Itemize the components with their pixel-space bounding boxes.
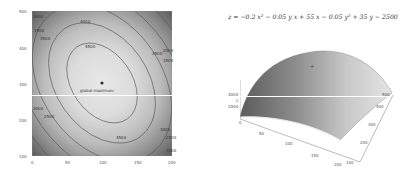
y-tick: 100 [19,154,27,159]
contour-label: 3000 [160,127,170,132]
separator-line [32,95,172,96]
contour-label: 4000 [80,19,90,24]
contour-label: 3500 [152,51,162,56]
z-axis-label: z [236,98,238,103]
contour-label: 4500 [85,44,95,49]
x-tick: 100 [99,160,107,165]
x-tick-3d: 200 [334,162,342,167]
contour-label: 2000 [166,148,176,153]
surface-plot-canvas: + [240,45,395,165]
y-tick-3d: 300 [368,122,376,127]
x-tick: 200 [168,160,176,165]
contour-label: 2500 [166,135,176,140]
x-tick-3d: 100 [285,141,293,146]
y-tick: 500 [19,9,27,14]
contour-label: 1500 [34,28,44,33]
y-tick-3d: 200 [360,140,368,145]
svg-text:+: + [310,63,314,69]
annotation-global-maximum: global maximum [80,88,114,93]
global-maximum-marker [100,81,103,84]
contour-label: 3000 [33,106,43,111]
x-tick-3d: 50 [259,131,264,136]
y-tick-3d: 500 [382,92,390,97]
z-tick: 4000 [228,92,238,97]
contour-label: 3500 [40,36,50,41]
surface-formula: z = −0.2 x² − 0.05 y x + 55 x − 0.05 y² … [228,13,398,20]
x-tick: 150 [134,160,142,165]
contour-label: 3000 [33,14,43,19]
y-tick-3d: 100 [346,160,354,165]
z-tick: 2000 [228,104,238,109]
y-tick: 300 [19,82,27,87]
y-tick: 200 [19,118,27,123]
x-tick-3d: 150 [311,153,319,158]
contour-label: 4500 [116,135,126,140]
contour-label: 2500 [44,114,54,119]
x-tick: 50 [65,160,70,165]
y-tick-3d: 400 [376,104,384,109]
y-tick: 400 [19,46,27,51]
contour-label: 2500 [163,48,173,53]
contour-label: 1500 [163,58,173,63]
contour-plot [32,11,172,156]
x-tick: 0 [31,160,34,165]
separator-line [240,96,390,97]
x-tick-3d: 0 [239,120,242,125]
surface-plot: + [240,45,395,165]
contour-plot-canvas [32,11,172,156]
